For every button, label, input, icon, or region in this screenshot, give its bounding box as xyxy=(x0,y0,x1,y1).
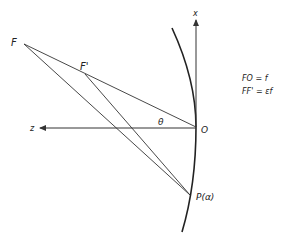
ray-Fprime-P xyxy=(85,74,190,195)
label-x-axis: x xyxy=(192,9,198,18)
label-O: O xyxy=(201,125,208,135)
label-F-prime: F' xyxy=(80,61,89,72)
label-theta: θ xyxy=(158,117,164,127)
label-P: P(α) xyxy=(196,192,214,202)
optics-diagram: F F' O P(α) x z θ FO = f FF' = εf xyxy=(0,0,299,243)
ray-F-P xyxy=(24,44,190,195)
ray-F-O xyxy=(24,44,196,127)
equation-FFprime: FF' = εf xyxy=(242,87,274,96)
equation-FO: FO = f xyxy=(242,74,269,83)
label-z-axis: z xyxy=(29,124,35,133)
mirror-curve xyxy=(172,28,196,232)
label-F: F xyxy=(11,37,17,48)
